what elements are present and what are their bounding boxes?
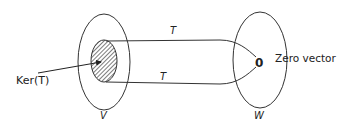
kernel-diagram: Ker(T) T T V W 0 Zero vector xyxy=(0,0,351,122)
kernel-region xyxy=(91,40,117,82)
zero-vector-label: Zero vector xyxy=(275,52,336,64)
mapping-label-bottom: T xyxy=(160,71,167,82)
codomain-label-w: W xyxy=(254,110,265,121)
zero-vector-symbol: 0 xyxy=(255,56,263,70)
domain-label-v: V xyxy=(100,110,108,121)
kernel-label: Ker(T) xyxy=(16,74,49,87)
mapping-label-top: T xyxy=(170,25,177,36)
